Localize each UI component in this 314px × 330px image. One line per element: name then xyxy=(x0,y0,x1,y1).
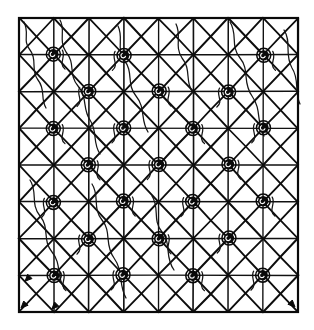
dislocation-node xyxy=(46,47,60,61)
dislocation-node xyxy=(46,195,60,209)
dislocation-node xyxy=(186,122,200,136)
dislocation-node xyxy=(152,84,166,98)
dislocation-node xyxy=(186,269,200,283)
dislocation-node xyxy=(116,268,130,282)
dislocation-node xyxy=(256,194,270,208)
lattice-drawing xyxy=(0,0,314,330)
dislocation-node xyxy=(186,195,200,209)
dislocation-node xyxy=(152,232,166,246)
dislocation-node xyxy=(152,157,166,171)
dislocation-node xyxy=(222,157,236,171)
figure-root xyxy=(0,0,314,330)
dislocation-node xyxy=(82,232,96,246)
dislocation-node xyxy=(117,48,131,62)
dislocation-node xyxy=(81,158,95,172)
dislocation-node xyxy=(116,194,130,208)
dislocation-node xyxy=(222,231,236,245)
dislocation-node xyxy=(222,85,236,99)
dislocation-node xyxy=(117,121,131,135)
dislocation-node xyxy=(256,268,270,282)
dislocation-node xyxy=(46,122,60,136)
dislocation-node xyxy=(257,48,271,62)
dislocation-node xyxy=(256,121,270,135)
dislocation-node xyxy=(47,269,61,283)
dislocation-node xyxy=(82,84,96,98)
